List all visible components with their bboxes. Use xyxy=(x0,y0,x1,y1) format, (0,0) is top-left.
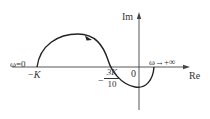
nyquist-curve xyxy=(37,34,154,87)
crossing-numerator: 3K xyxy=(104,68,120,79)
minus-k-var: K xyxy=(34,69,41,80)
re-axis-label: Re xyxy=(189,71,200,81)
nyquist-plot xyxy=(0,0,210,119)
real-axis-arrow-icon xyxy=(183,65,190,69)
crossing-fraction: 3K 10 xyxy=(104,68,120,89)
minus-k-label: −K xyxy=(28,70,40,80)
omega-inf-label: ω→+∞ xyxy=(149,58,175,67)
origin-label: 0 xyxy=(131,69,136,79)
crossing-sign: − xyxy=(98,76,104,86)
im-axis-label: Im xyxy=(122,12,133,22)
crossing-denominator: 10 xyxy=(104,79,120,89)
imag-axis-arrow-icon xyxy=(137,12,141,19)
omega-zero-label: ω=0 xyxy=(10,60,26,69)
